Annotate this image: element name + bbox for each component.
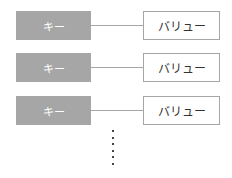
key-box: キー [16, 96, 91, 125]
connector-line [91, 110, 143, 111]
connector-line [91, 67, 143, 68]
key-box: キー [16, 53, 91, 82]
value-box: バリュー [143, 53, 220, 82]
value-box: バリュー [143, 11, 220, 40]
key-value-row: キー バリュー [0, 11, 232, 40]
vertical-ellipsis-icon [112, 130, 115, 170]
key-value-row: キー バリュー [0, 53, 232, 82]
key-box: キー [16, 11, 91, 40]
connector-line [91, 25, 143, 26]
key-value-row: キー バリュー [0, 96, 232, 125]
value-box: バリュー [143, 96, 220, 125]
